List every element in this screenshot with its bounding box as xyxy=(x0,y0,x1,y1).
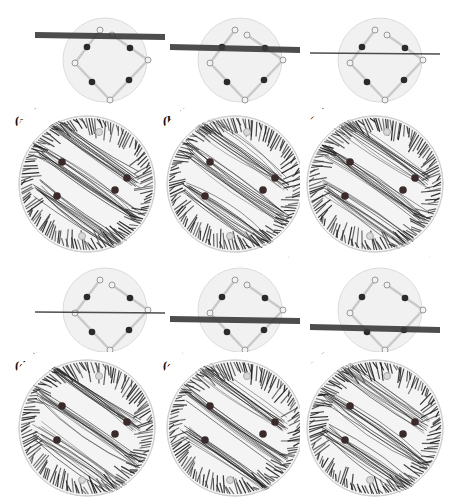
mass-point xyxy=(111,430,119,438)
mass-point xyxy=(201,192,209,200)
hinge-joint xyxy=(145,307,151,313)
hinge-joint xyxy=(232,277,238,283)
mass-point xyxy=(346,158,354,166)
hinge-joint xyxy=(72,60,78,66)
rim-streamline xyxy=(29,395,38,396)
mass-point xyxy=(58,158,66,166)
mass-point xyxy=(261,77,268,84)
schematic-d xyxy=(30,255,170,355)
streamline-disk xyxy=(160,352,310,502)
mass-point xyxy=(201,436,209,444)
mass-point xyxy=(402,45,409,52)
rim-streamline xyxy=(220,229,221,249)
hinge-joint xyxy=(384,32,390,38)
mass-point xyxy=(84,294,91,301)
hinge-joint xyxy=(207,310,213,316)
rim-streamline xyxy=(409,128,410,138)
mass-point xyxy=(126,77,133,84)
hinge-joint xyxy=(97,277,103,283)
mass-point xyxy=(111,186,119,194)
rim-streamline xyxy=(200,230,201,240)
mass-point xyxy=(89,79,96,86)
hinge-joint xyxy=(96,129,103,136)
hinge-joint xyxy=(145,57,151,63)
rim-streamline xyxy=(281,200,299,201)
mass-point xyxy=(271,418,279,426)
hinge-joint xyxy=(420,307,426,313)
hinge-joint xyxy=(372,27,378,33)
mass-point xyxy=(262,295,269,302)
hinge-joint xyxy=(244,129,251,136)
flow-field-f xyxy=(300,352,450,502)
rim-streamline xyxy=(173,405,187,406)
hinge-joint xyxy=(232,27,238,33)
mass-point xyxy=(58,402,66,410)
mass-point xyxy=(206,158,214,166)
mass-point xyxy=(127,45,134,52)
streamline-disk xyxy=(12,352,162,502)
sphere-linkage-plane-diagram xyxy=(30,255,170,355)
rim-streamline xyxy=(177,395,185,396)
schematic-b xyxy=(165,5,305,105)
hinge-joint xyxy=(347,310,353,316)
mass-point xyxy=(399,186,407,194)
mass-point xyxy=(341,192,349,200)
schematic-e xyxy=(165,255,305,355)
hinge-joint xyxy=(384,373,391,380)
hinge-joint xyxy=(420,57,426,63)
hinge-joint xyxy=(244,373,251,380)
hinge-joint xyxy=(384,129,391,136)
flow-field-b xyxy=(160,108,310,258)
mass-point xyxy=(123,174,131,182)
mass-point xyxy=(206,402,214,410)
rim-streamline xyxy=(346,479,347,488)
streamline-disk xyxy=(12,108,162,258)
hinge-joint xyxy=(207,60,213,66)
rim-streamline xyxy=(173,406,184,407)
hinge-joint xyxy=(382,97,388,103)
sphere-linkage-plane-diagram xyxy=(30,5,170,105)
mass-point xyxy=(219,294,226,301)
hinge-joint xyxy=(97,27,103,33)
hinge-joint xyxy=(372,277,378,283)
rim-streamline xyxy=(23,168,39,169)
flow-field-a xyxy=(12,108,162,258)
sphere-linkage-plane-diagram xyxy=(165,5,305,105)
mass-point xyxy=(341,436,349,444)
sphere-linkage-plane-diagram xyxy=(305,5,445,105)
hinge-joint xyxy=(79,477,86,484)
rim-streamline xyxy=(256,122,257,137)
hinge-joint xyxy=(79,233,86,240)
mass-point xyxy=(399,430,407,438)
hinge-joint xyxy=(244,282,250,288)
sphere-linkage-plane-diagram xyxy=(305,255,445,355)
mass-point xyxy=(126,327,133,334)
cutting-plane xyxy=(35,32,165,40)
mass-point xyxy=(411,174,419,182)
mass-point xyxy=(271,174,279,182)
schematic-c xyxy=(305,5,445,105)
mass-point xyxy=(359,44,366,51)
hinge-joint xyxy=(109,282,115,288)
hinge-joint xyxy=(384,282,390,288)
rim-streamline xyxy=(404,125,405,137)
mass-point xyxy=(53,192,61,200)
flow-field-c xyxy=(300,108,450,258)
hinge-joint xyxy=(227,477,234,484)
hinge-joint xyxy=(242,97,248,103)
hinge-joint xyxy=(280,57,286,63)
hinge-joint xyxy=(280,307,286,313)
streamline-disk xyxy=(160,108,310,258)
streamline-disk xyxy=(300,352,450,502)
mass-point xyxy=(261,327,268,334)
hinge-joint xyxy=(367,477,374,484)
hinge-joint xyxy=(347,60,353,66)
mass-point xyxy=(127,295,134,302)
rim-streamline xyxy=(336,474,337,481)
rim-streamline xyxy=(274,230,281,231)
sphere-linkage-plane-diagram xyxy=(165,255,305,355)
schematic-f xyxy=(305,255,445,355)
hinge-joint xyxy=(96,373,103,380)
mass-point xyxy=(84,44,91,51)
hinge-joint xyxy=(244,32,250,38)
